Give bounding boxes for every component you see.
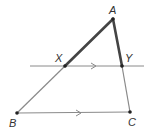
point-c (128, 110, 132, 114)
label-y: Y (125, 52, 133, 64)
point-y (120, 64, 124, 68)
segment-ax (65, 19, 113, 66)
label-x: X (54, 52, 63, 64)
label-a: A (108, 4, 116, 16)
point-x (63, 64, 67, 68)
label-b: B (9, 117, 16, 129)
segment-bc (17, 112, 130, 113)
parallel-arrow-bc-icon (76, 110, 81, 116)
point-a (111, 17, 115, 21)
segment-xb (17, 66, 65, 113)
segment-ay (113, 19, 122, 66)
geometry-diagram: A X Y B C (0, 0, 153, 137)
segment-yc (122, 66, 130, 112)
label-c: C (128, 116, 136, 128)
point-b (15, 111, 19, 115)
